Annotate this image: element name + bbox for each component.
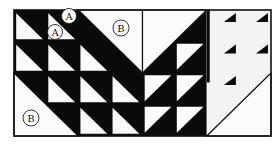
quilt-block-diagram: AABB [0,0,278,147]
piece-label-b: B [113,20,129,36]
piece-label-a: A [62,9,77,24]
piece-label-b: B [23,110,39,126]
seam-shadow [207,10,210,82]
label-text: A [64,11,73,22]
piece-label-a: A [48,25,63,40]
label-text: A [50,27,59,38]
label-text: B [27,113,34,124]
label-text: B [117,23,124,34]
